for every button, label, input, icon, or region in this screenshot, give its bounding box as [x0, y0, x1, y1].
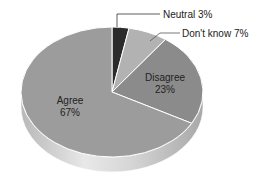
dont-know-callout-label: Don't know 7%	[182, 28, 248, 39]
pie-chart: Neutral 3% Don't know 7% Disagree 23% Ag…	[0, 0, 265, 180]
pie-slices	[21, 27, 203, 157]
disagree-label: Disagree	[145, 72, 185, 83]
agree-label: Agree	[57, 95, 84, 106]
neutral-callout-label: Neutral 3%	[163, 9, 213, 20]
disagree-value: 23%	[155, 84, 175, 95]
agree-value: 67%	[60, 107, 80, 118]
neutral-leader-line	[117, 14, 160, 27]
